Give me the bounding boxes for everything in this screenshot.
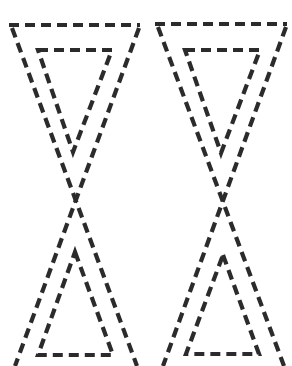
outer-left-leg: [158, 27, 284, 366]
inner-upright-triangle: [38, 252, 113, 355]
inner-inverted-triangle: [185, 50, 260, 153]
worksheet-canvas: [0, 0, 292, 366]
outer-right-leg: [163, 27, 286, 366]
right-hourglass-figure: [155, 24, 287, 366]
left-hourglass-figure: [9, 25, 140, 366]
